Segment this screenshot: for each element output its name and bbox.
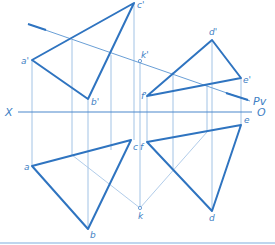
label-d: d bbox=[209, 213, 215, 223]
label-f-prime: f' bbox=[141, 91, 147, 101]
triangle-def-front bbox=[147, 40, 241, 96]
label-f: f bbox=[140, 142, 145, 152]
label-x: X bbox=[4, 106, 13, 119]
projection-diagram: c' a' b' k' d' e' f' Pv X O a b c k d e … bbox=[0, 0, 275, 245]
triangle-abc-top bbox=[32, 140, 131, 229]
label-c-prime: c' bbox=[137, 0, 144, 10]
pv-trace-thick-start bbox=[28, 24, 46, 30]
label-a-prime: a' bbox=[21, 56, 29, 66]
label-a: a bbox=[24, 162, 30, 172]
label-b: b bbox=[90, 230, 96, 240]
label-c: c bbox=[133, 142, 138, 152]
label-b-prime: b' bbox=[91, 97, 99, 107]
section-line-ck bbox=[72, 155, 140, 208]
label-d-prime: d' bbox=[209, 27, 217, 37]
label-k: k bbox=[138, 211, 144, 221]
triangle-abc-front bbox=[32, 3, 134, 99]
triangle-def-top bbox=[147, 125, 241, 211]
label-e-prime: e' bbox=[243, 75, 251, 85]
pv-trace-thick-end bbox=[226, 93, 248, 100]
point-k bbox=[138, 206, 141, 209]
label-o: O bbox=[257, 106, 266, 119]
label-e: e bbox=[244, 115, 250, 125]
label-k-prime: k' bbox=[141, 50, 149, 60]
